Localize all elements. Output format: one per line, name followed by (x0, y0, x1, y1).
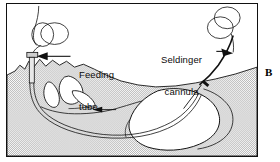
label-seldinger-cannula-line2: cannula (161, 87, 202, 98)
seldinger-cannula-arrow (216, 48, 233, 56)
feeding-tube-arrow (37, 52, 71, 60)
illustration-frame: Feeding tube Seldinger cannula (6, 3, 258, 157)
seldinger-cannula-coil (207, 7, 240, 52)
label-feeding-tube-line1: Feeding (79, 70, 114, 81)
label-seldinger-cannula-line1: Seldinger (161, 55, 202, 66)
feeding-tube-coil (32, 6, 69, 53)
medical-illustration-svg (7, 4, 257, 156)
label-feeding-tube: Feeding tube (79, 49, 114, 133)
label-seldinger-cannula: Seldinger cannula (161, 34, 202, 118)
figure-panel: Feeding tube Seldinger cannula B (0, 0, 280, 162)
label-feeding-tube-line2: tube (79, 102, 114, 113)
panel-letter-label: B (265, 66, 272, 78)
